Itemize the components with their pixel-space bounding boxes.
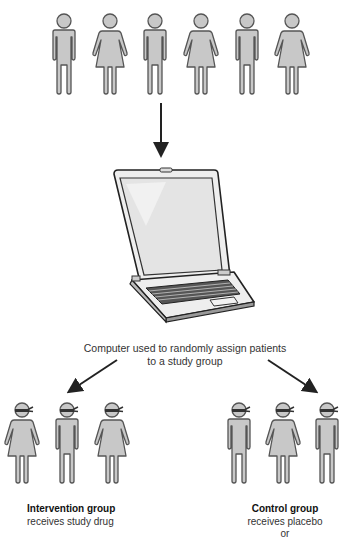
laptop-icon xyxy=(106,166,256,326)
intervention-title: Intervention group xyxy=(27,503,115,514)
control-group xyxy=(200,395,345,495)
control-label: Control group receives placebo or xyxy=(240,503,330,538)
intervention-description: receives study drug xyxy=(27,516,114,527)
intervention-label: Intervention group receives study drug xyxy=(27,503,115,528)
control-description: receives placebo xyxy=(247,516,322,527)
caption-line-1: Computer used to randomly assign patient… xyxy=(70,342,300,355)
caption-line-2: to a study group xyxy=(70,355,300,368)
male-blindfolded-person-icon xyxy=(50,402,84,486)
male-blindfolded-person-icon xyxy=(310,402,344,486)
female-blindfolded-person-icon xyxy=(266,402,300,486)
female-blindfolded-person-icon xyxy=(95,402,129,486)
control-extra: or xyxy=(281,528,290,538)
control-title: Control group xyxy=(252,503,319,514)
intervention-group xyxy=(0,395,170,495)
male-blindfolded-person-icon xyxy=(222,402,256,486)
female-blindfolded-person-icon xyxy=(5,402,39,486)
randomization-caption: Computer used to randomly assign patient… xyxy=(70,342,300,368)
